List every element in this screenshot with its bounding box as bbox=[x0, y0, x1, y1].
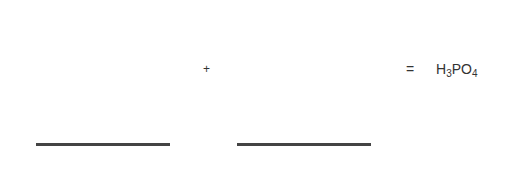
product-part-po: PO bbox=[452, 61, 472, 77]
reactant-1-blank[interactable] bbox=[36, 143, 170, 146]
reactant-2-blank[interactable] bbox=[237, 143, 371, 146]
equals-operator: = bbox=[406, 62, 414, 76]
product-formula: H3PO4 bbox=[436, 62, 477, 76]
product-subscript-4: 4 bbox=[472, 68, 478, 79]
product-part-h: H bbox=[436, 61, 446, 77]
plus-operator: + bbox=[203, 63, 210, 75]
